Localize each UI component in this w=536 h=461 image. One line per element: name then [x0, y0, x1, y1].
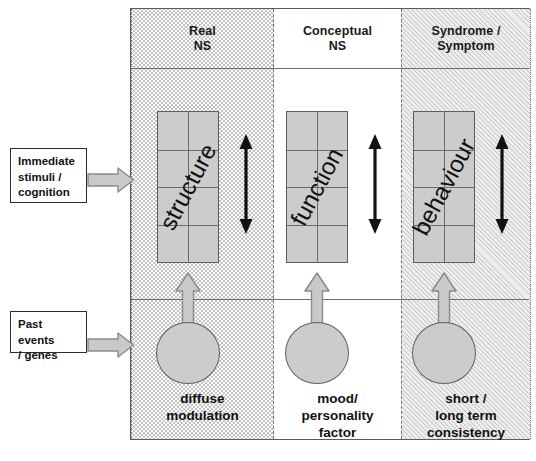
caption-line-1: diffuse	[131, 391, 274, 408]
input-box-line-2: stimuli /	[18, 170, 79, 186]
caption-short-long-term: short / long term consistency	[401, 391, 531, 442]
grid-horizontal-line	[287, 187, 347, 188]
caption-line-2: personality	[274, 408, 401, 425]
double-headed-arrow-behaviour	[493, 134, 511, 234]
grid-horizontal-line	[287, 150, 347, 151]
circle-mood-personality	[285, 322, 349, 384]
grid-horizontal-line	[158, 187, 218, 188]
header-conceptual-ns-line2: NS	[303, 39, 372, 54]
column-header-real-ns: Real NS	[131, 9, 274, 69]
caption-line-1: mood/	[274, 391, 401, 408]
double-headed-arrow-structure	[237, 134, 255, 234]
input-box-line-1: Immediate	[18, 154, 79, 170]
caption-line-3: consistency	[401, 425, 531, 442]
double-headed-arrow-function	[366, 134, 384, 234]
circle-short-long-term	[412, 322, 476, 384]
header-conceptual-ns-line1: Conceptual	[303, 24, 372, 39]
column-header-syndrome-symptom: Syndrome / Symptom	[401, 9, 531, 69]
column-header-conceptual-ns: Conceptual NS	[274, 9, 401, 69]
block-arrow-right-past-events	[87, 331, 135, 359]
block-arrow-right-immediate-stimuli	[87, 166, 135, 194]
block-arrow-up-structure	[174, 271, 202, 329]
grid-box-behaviour	[413, 111, 475, 263]
diagram-canvas: Real NS Conceptual NS Syndrome / Symptom	[0, 0, 536, 461]
caption-line-2: long term	[401, 408, 531, 425]
header-real-ns-line2: NS	[189, 39, 216, 54]
caption-mood-personality: mood/ personality factor	[274, 391, 401, 442]
input-box-line-3: cognition	[18, 185, 79, 201]
caption-line-3: factor	[274, 425, 401, 442]
header-syndrome-line1: Syndrome /	[431, 24, 500, 39]
block-arrow-up-behaviour	[430, 271, 458, 329]
caption-line-2: modulation	[131, 408, 274, 425]
header-band: Real NS Conceptual NS Syndrome / Symptom	[131, 9, 529, 69]
input-box-line-2: / genes	[18, 348, 79, 364]
grid-horizontal-line	[414, 225, 474, 226]
input-box-past-events: Past events / genes	[10, 311, 87, 353]
circle-diffuse-modulation	[156, 322, 220, 384]
matrix-frame: Real NS Conceptual NS Syndrome / Symptom	[130, 8, 530, 440]
block-arrow-up-function	[303, 271, 331, 329]
grid-horizontal-line	[158, 150, 218, 151]
caption-diffuse-modulation: diffuse modulation	[131, 391, 274, 425]
input-box-line-1: Past events	[18, 317, 79, 348]
grid-box-function	[286, 111, 348, 263]
header-real-ns-line1: Real	[189, 24, 216, 39]
header-syndrome-line2: Symptom	[431, 39, 500, 54]
grid-horizontal-line	[414, 187, 474, 188]
caption-line-1: short /	[401, 391, 531, 408]
grid-horizontal-line	[287, 225, 347, 226]
grid-horizontal-line	[158, 225, 218, 226]
input-box-immediate-stimuli: Immediate stimuli / cognition	[10, 148, 87, 203]
grid-horizontal-line	[414, 150, 474, 151]
grid-box-structure	[157, 111, 219, 263]
